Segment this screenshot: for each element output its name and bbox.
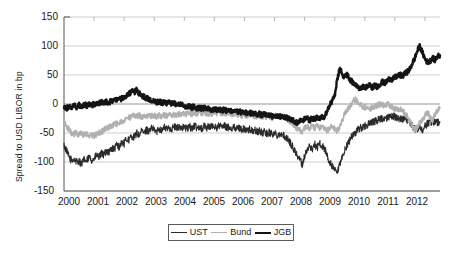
x-axis-ticks [64,17,425,21]
legend-entry-jgb: JGB [255,228,292,237]
legend-label-jgb: JGB [274,228,292,237]
legend-entry-ust: UST [171,228,208,237]
legend-swatch-bund-icon [211,232,227,233]
spread-chart: Spread to USD LIBOR in bp 150 100 50 0 -… [0,0,451,257]
legend-entry-bund: Bund [211,228,251,237]
legend-label-ust: UST [190,228,208,237]
plot-area [0,0,451,257]
series-line-jgb [64,44,440,125]
chart-legend: UST Bund JGB [168,224,294,241]
legend-swatch-ust-icon [171,232,187,233]
legend-label-bund: Bund [230,228,251,237]
series-lines [64,44,440,173]
legend-swatch-jgb-icon [255,232,271,234]
